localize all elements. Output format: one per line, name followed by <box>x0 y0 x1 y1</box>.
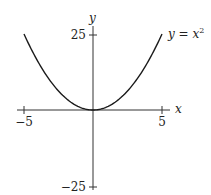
y-min-label: −25 <box>61 180 86 194</box>
x-max-label: 5 <box>158 115 166 129</box>
x-min-label: −5 <box>15 115 33 129</box>
x-axis-label: x <box>175 102 182 116</box>
curve-label-main: y = x <box>167 27 199 41</box>
curve-label-exponent: 2 <box>199 26 204 35</box>
y-axis-label: y <box>88 11 96 25</box>
parabola-chart: y 25 −25 −5 5 x y = x2 <box>0 0 211 195</box>
y-max-label: 25 <box>71 28 86 42</box>
curve-label: y = x2 <box>167 26 204 41</box>
